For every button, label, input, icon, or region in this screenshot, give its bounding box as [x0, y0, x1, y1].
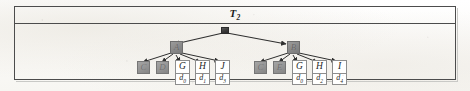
tree-cell-right-g-bottom: d0 [293, 74, 306, 84]
tree-cell-left-h-data: d1 [199, 74, 206, 84]
figure-title: T2 [230, 8, 241, 22]
tree-cell-left-j: J d3 [215, 60, 230, 85]
tree-cell-right-h-data: d2 [316, 74, 323, 84]
tree-cell-right-h: H d2 [312, 60, 327, 85]
title-band: T2 [14, 6, 456, 24]
tree-cell-right-h-letter: H [316, 62, 323, 72]
tree-cell-left-g-data: d0 [179, 74, 186, 84]
figure-root: T2 [0, 0, 470, 91]
tree-cell-left-h-bottom: d1 [196, 74, 209, 84]
tree-node-b-label: B [291, 43, 297, 52]
tree-cell-right-g: G d0 [292, 60, 307, 85]
tree-cell-left-h-data-subscript: 1 [203, 78, 206, 84]
tree-cell-right-h-data-subscript: 2 [320, 78, 323, 84]
edge-root-to-b [227, 33, 286, 44]
tree-node-a-label: A [174, 43, 180, 52]
tree-cell-left-g-letter: G [179, 62, 186, 72]
tree-leaf-right-e: E [273, 61, 286, 74]
tree-cell-right-i-data: d4 [336, 74, 343, 84]
tree-cell-left-j-data: d3 [219, 74, 226, 84]
tree-leaf-right-e-label: E [277, 63, 283, 72]
figure-title-subscript: 2 [236, 13, 240, 22]
tree-node-a: A [170, 41, 183, 54]
tree-cell-right-i-letter: I [338, 62, 341, 72]
tree-cell-left-j-bottom: d3 [216, 74, 229, 84]
tree-cell-right-g-letter: G [296, 62, 303, 72]
tree-cell-left-g-data-subscript: 0 [183, 78, 186, 84]
tree-canvas: A B C D G d0 H d1 [14, 24, 456, 80]
tree-leaf-left-d-label: D [159, 63, 166, 72]
tree-cell-right-g-data: d0 [296, 74, 303, 84]
tree-cell-left-g-bottom: d0 [176, 74, 189, 84]
tree-leaf-left-d: D [156, 61, 169, 74]
tree-cell-left-j-data-subscript: 3 [223, 78, 226, 84]
tree-leaf-left-c-label: C [140, 63, 146, 72]
tree-cell-right-g-data-subscript: 0 [300, 78, 303, 84]
tree-cell-right-i-bottom: d4 [333, 74, 346, 84]
tree-cell-left-j-letter: J [220, 62, 224, 72]
tree-cell-right-i-data-subscript: 4 [340, 78, 343, 84]
tree-cell-right-i: I d4 [332, 60, 347, 85]
tree-leaf-right-c: C [254, 61, 267, 74]
tree-node-root [221, 27, 229, 34]
tree-leaf-right-c-label: C [257, 63, 263, 72]
tree-leaf-left-c: C [137, 61, 150, 74]
tree-cell-left-g: G d0 [175, 60, 190, 85]
tree-cell-left-h-letter: H [199, 62, 206, 72]
tree-node-b: B [287, 41, 300, 54]
tree-edges [14, 24, 456, 80]
tree-cell-left-h: H d1 [195, 60, 210, 85]
tree-cell-right-h-bottom: d2 [313, 74, 326, 84]
